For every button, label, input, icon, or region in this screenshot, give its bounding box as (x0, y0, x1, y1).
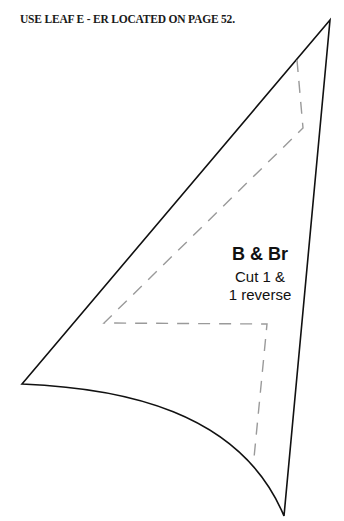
cut-instruction-line1: Cut 1 & (200, 268, 320, 285)
piece-name: B & Br (200, 244, 320, 265)
cut-instruction-line2: 1 reverse (200, 286, 320, 303)
